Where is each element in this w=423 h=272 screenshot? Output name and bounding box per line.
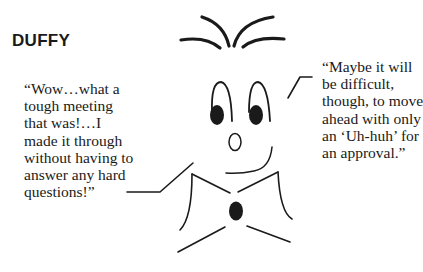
mouth-icon	[229, 134, 241, 151]
bowtie-knot-icon	[229, 202, 243, 221]
jaw-line-icon	[226, 147, 272, 173]
speech-pointer-right-icon	[288, 77, 312, 98]
left-eye-icon	[210, 82, 232, 125]
speech-pointer-left-icon	[127, 163, 193, 192]
hair-icon	[181, 17, 284, 48]
right-eye-icon	[249, 82, 270, 125]
